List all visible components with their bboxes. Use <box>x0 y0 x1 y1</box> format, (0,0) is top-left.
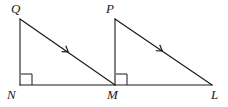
vertex-label-L: L <box>211 88 218 101</box>
right-angle-marker-N <box>21 74 32 85</box>
segment-PL <box>115 19 212 85</box>
vertex-label-N: N <box>7 88 16 101</box>
right-angle-marker-M <box>116 74 127 85</box>
vertex-label-M: M <box>107 88 118 101</box>
vertex-label-P: P <box>106 2 114 15</box>
vertex-label-Q: Q <box>11 2 20 15</box>
geometry-figure: Q P N M L <box>0 0 228 107</box>
